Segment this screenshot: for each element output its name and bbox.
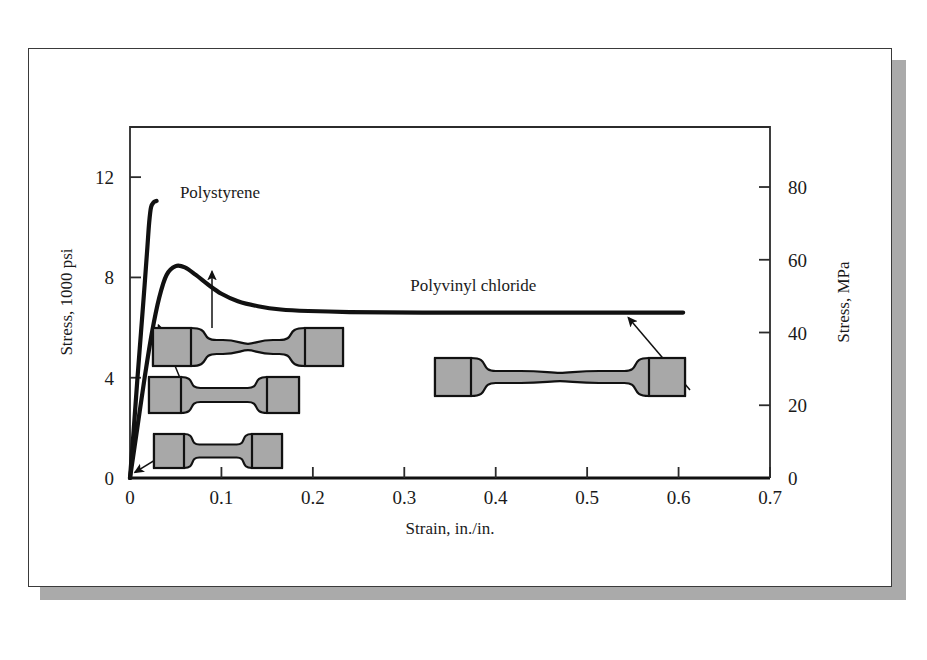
y-tick-label-right: 60	[788, 250, 807, 271]
plot-area: 00.10.20.30.40.50.60.7 04812 020406080 P…	[0, 0, 927, 660]
y-tick-label-right: 0	[788, 468, 798, 489]
curve-annotations: PolystyrenePolyvinyl chloride	[180, 183, 536, 295]
specimen-drawn-body	[435, 358, 685, 396]
y-tick-label-right: 40	[788, 323, 807, 344]
plot-border	[130, 127, 770, 478]
specimen-drawn-grip-left	[435, 358, 471, 396]
specimen-undeformed	[154, 434, 282, 468]
x-tick-label: 0.4	[484, 487, 508, 508]
y-tick-label-left: 0	[105, 468, 115, 489]
x-axis-tick-labels: 00.10.20.30.40.50.60.7	[125, 487, 782, 508]
specimen-undeformed-grip-right	[252, 434, 282, 468]
x-axis-ticks	[221, 467, 770, 478]
polyvinyl-chloride-label: Polyvinyl chloride	[410, 276, 536, 295]
stress-strain-chart: 00.10.20.30.40.50.60.7 04812 020406080 P…	[0, 0, 927, 660]
specimen-necked-grip-left	[153, 328, 191, 366]
y-axis-right-tick-labels: 020406080	[788, 177, 807, 489]
specimen-necked	[153, 328, 343, 366]
specimen-illustrations	[149, 328, 685, 468]
specimen-drawn-grip-right	[649, 358, 685, 396]
y-axis-right-ticks	[759, 187, 770, 405]
x-tick-label: 0.3	[392, 487, 416, 508]
polystyrene-label: Polystyrene	[180, 183, 260, 202]
y-tick-label-right: 20	[788, 395, 807, 416]
x-tick-label: 0.1	[210, 487, 234, 508]
specimen-elastic-grip-right	[267, 377, 299, 413]
specimen-necked-grip-right	[305, 328, 343, 366]
x-tick-label: 0	[125, 487, 135, 508]
specimen-undeformed-grip-left	[154, 434, 184, 468]
x-tick-label: 0.6	[667, 487, 691, 508]
y-tick-label-left: 4	[105, 368, 115, 389]
x-tick-label: 0.2	[301, 487, 325, 508]
y-axis-right-title: Stress, MPa	[834, 261, 853, 343]
plot-frame	[130, 127, 770, 478]
y-axis-left-title: Stress, 1000 psi	[57, 248, 76, 355]
x-axis-title: Strain, in./in.	[406, 519, 495, 538]
specimen-elastic-grip-left	[149, 377, 181, 413]
x-tick-label: 0.5	[575, 487, 599, 508]
y-tick-label-right: 80	[788, 177, 807, 198]
y-tick-label-left: 12	[95, 167, 114, 188]
x-tick-label: 0.7	[758, 487, 782, 508]
y-axis-left-tick-labels: 04812	[95, 167, 115, 489]
figure-root: 00.10.20.30.40.50.60.7 04812 020406080 P…	[0, 0, 927, 660]
specimen-elastic	[149, 377, 299, 413]
y-tick-label-left: 8	[105, 267, 115, 288]
specimen-drawn	[435, 358, 685, 396]
